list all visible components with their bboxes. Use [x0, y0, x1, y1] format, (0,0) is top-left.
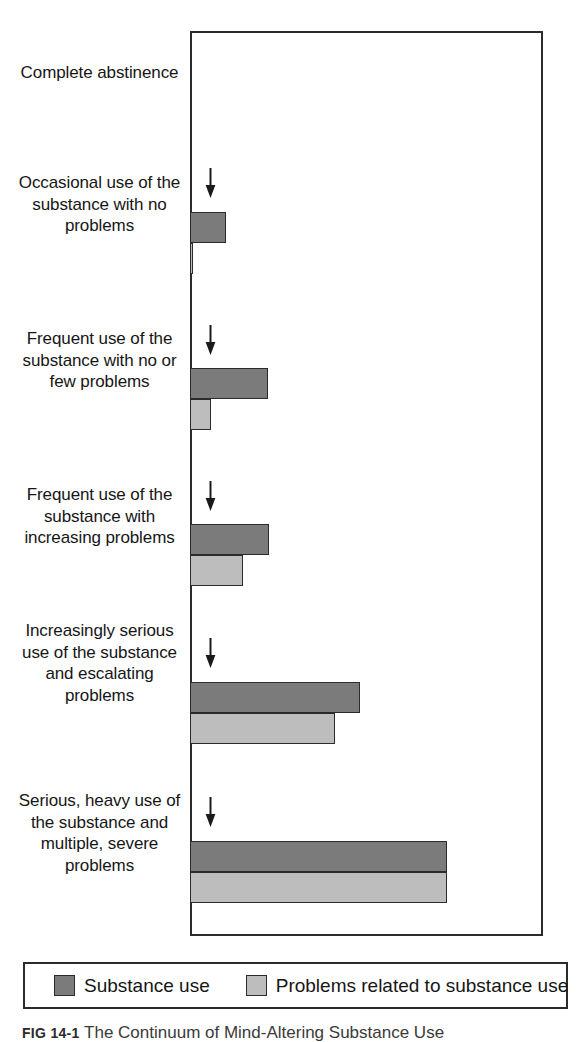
bar-substance-use-3 [190, 524, 269, 555]
bar-problems-related-2 [190, 399, 211, 430]
figure-chart: Complete abstinence Occasional use of th… [0, 0, 585, 946]
legend-swatch-substance-use [54, 975, 75, 996]
down-arrow-icon-5 [204, 797, 217, 827]
plot-frame [190, 31, 543, 936]
bar-substance-use-2 [190, 368, 268, 399]
down-arrow-icon-1 [204, 168, 217, 198]
legend-label-substance-use: Substance use [84, 975, 210, 997]
category-label-complete-abstinence: Complete abstinence [17, 62, 182, 84]
category-label-frequent-use-increasing: Frequent use of the substance with incre… [17, 484, 182, 549]
category-label-frequent-use-few: Frequent use of the substance with no or… [17, 328, 182, 393]
legend-item-problems-related: Problems related to substance use [246, 975, 569, 997]
down-arrow-icon-2 [204, 325, 217, 355]
down-arrow-icon-4 [204, 638, 217, 668]
down-arrow-icon-3 [204, 481, 217, 511]
legend-item-substance-use: Substance use [54, 975, 210, 997]
category-label-occasional-use: Occasional use of the substance with no … [17, 172, 182, 237]
bar-problems-related-1 [190, 243, 193, 274]
bar-substance-use-1 [190, 212, 226, 243]
figure-number: FIG 14-1 [22, 1025, 80, 1041]
chart-legend: Substance use Problems related to substa… [23, 962, 568, 1009]
bar-substance-use-5 [190, 841, 447, 872]
legend-swatch-problems-related [246, 975, 267, 996]
category-label-serious-heavy: Serious, heavy use of the substance and … [17, 790, 182, 876]
bar-problems-related-4 [190, 713, 335, 744]
bar-problems-related-5 [190, 872, 447, 903]
figure-caption-text: The Continuum of Mind-Altering Substance… [84, 1023, 444, 1042]
figure-caption: FIG 14-1 The Continuum of Mind-Altering … [22, 1022, 585, 1042]
legend-label-problems-related: Problems related to substance use [276, 975, 569, 997]
bar-substance-use-4 [190, 682, 360, 713]
bar-problems-related-3 [190, 555, 243, 586]
category-label-increasingly-serious: Increasingly serious use of the substanc… [17, 620, 182, 706]
